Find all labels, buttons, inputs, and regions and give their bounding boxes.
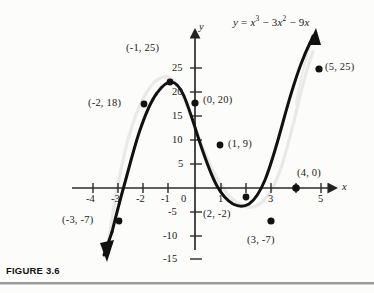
x-tick-label-5: 5 [318, 194, 323, 205]
x-tick-label-neg1: -1 [161, 194, 170, 205]
point-label-neg3-neg7: (-3, -7) [62, 215, 93, 226]
x-axis-label: x [342, 182, 347, 193]
x-tick-label-3: 3 [268, 194, 273, 205]
y-tick-label-20: 20 [172, 87, 183, 98]
y-axis-ticks [190, 68, 202, 259]
point-5-25 [315, 65, 322, 72]
equation-annotation: y = x3 − 3x2 − 9x [233, 17, 310, 28]
ghost-curve-artifact [107, 46, 313, 252]
equation-lhs: y [233, 16, 238, 28]
curve-arrow-lower-left [100, 240, 114, 262]
point-label-0-20: (0, 20) [203, 95, 232, 106]
y-tick-label-15: 15 [172, 111, 183, 122]
point-neg2-18 [141, 101, 148, 108]
point-4-0 [292, 184, 300, 192]
figure-root: y = x3 − 3x2 − 9x y x -4 -3 -2 -1 0 1 3 … [0, 0, 374, 293]
x-tick-label-0: 0 [181, 194, 186, 205]
plot-area: y = x3 − 3x2 − 9x y x -4 -3 -2 -1 0 1 3 … [0, 0, 374, 262]
equation-term3-base: x [305, 16, 310, 28]
point-1-9 [217, 142, 224, 149]
point-label-neg1-25: (-1, 25) [126, 43, 159, 54]
equation-term2-exponent: 2 [283, 14, 287, 23]
point-2-neg2 [243, 194, 250, 201]
point-3-neg7 [267, 217, 274, 224]
y-tick-label-neg10: -10 [163, 231, 177, 242]
x-tick-label-neg3: -3 [111, 194, 120, 205]
x-tick-label-neg4: -4 [86, 194, 95, 205]
point-label-4-0: (4, 0) [297, 168, 321, 179]
x-tick-label-neg2: -2 [136, 194, 145, 205]
y-tick-label-25: 25 [172, 63, 183, 74]
cubic-graph-svg [0, 0, 374, 262]
y-axis-label: y [199, 22, 204, 33]
point-label-neg2-18: (-2, 18) [88, 98, 121, 109]
point-0-20 [191, 99, 198, 106]
y-tick-label-10: 10 [172, 135, 183, 146]
x-tick-label-1: 1 [218, 194, 223, 205]
figure-caption: FIGURE 3.6 [6, 265, 60, 276]
caption-block: FIGURE 3.6 [0, 262, 374, 293]
point-label-3-neg7: (3, -7) [247, 235, 275, 246]
point-neg1-25 [167, 79, 174, 86]
point-label-2-neg2: (2, -2) [203, 209, 231, 220]
equation-term3-coef: − 9 [289, 16, 304, 28]
point-neg3-neg7 [116, 218, 123, 225]
point-label-1-9: (1, 9) [228, 139, 252, 150]
equation-term1-exponent: 3 [256, 14, 260, 23]
curve-arrow-upper-right [308, 28, 321, 45]
point-label-5-25: (5, 25) [325, 62, 354, 73]
y-tick-label-neg5: -5 [168, 207, 177, 218]
caption-divider-rule-shadow [0, 284, 374, 285]
y-tick-label-5: 5 [178, 159, 183, 170]
equation-equals: = [241, 16, 247, 28]
equation-term2-coef: − 3 [262, 16, 277, 28]
